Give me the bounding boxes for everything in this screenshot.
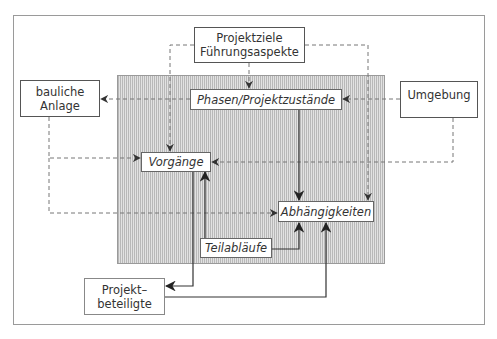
edge-umgebung-vorgaenge <box>212 118 453 162</box>
edge-bauliche-vorgaenge <box>49 117 140 158</box>
node-projektbeteiligte: Projekt– beteiligte <box>84 278 165 315</box>
node-bauliche-anlage: bauliche Anlage <box>20 80 100 117</box>
node-phasen: Phasen/Projektzustände <box>190 89 342 110</box>
node-teilablaeufe: Teilabläufe <box>200 238 272 258</box>
node-phasen-label: Phasen/Projektzustände <box>197 93 335 107</box>
node-projektziele-line2: Führungsaspekte <box>200 45 299 59</box>
node-projektbeteiligte-line1: Projekt– <box>97 283 151 297</box>
edge-projektziele-abhaengigkeiten <box>305 45 368 200</box>
node-bauliche-anlage-line1: bauliche <box>36 85 85 99</box>
node-projektziele: Projektziele Führungsaspekte <box>194 27 305 63</box>
node-vorgaenge: Vorgänge <box>141 152 211 172</box>
node-projektziele-line1: Projektziele <box>200 31 299 45</box>
node-umgebung-label: Umgebung <box>407 88 470 102</box>
node-teilablaeufe-label: Teilabläufe <box>205 241 267 255</box>
node-umgebung: Umgebung <box>400 81 478 118</box>
node-abhaengigkeiten-label: Abhängigkeiten <box>281 205 371 219</box>
node-abhaengigkeiten: Abhängigkeiten <box>278 201 374 222</box>
edge-teilablaeufe-abhaengigkeiten <box>272 223 299 249</box>
node-vorgaenge-label: Vorgänge <box>149 155 204 169</box>
edge-vorgaenge-projektbeteiligte <box>166 171 193 286</box>
node-bauliche-anlage-line2: Anlage <box>36 99 85 113</box>
node-projektbeteiligte-line2: beteiligte <box>97 297 151 311</box>
